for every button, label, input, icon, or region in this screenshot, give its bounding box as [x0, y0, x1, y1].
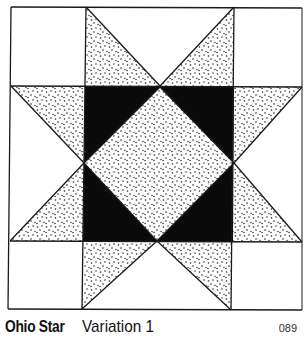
corner-square-top-right — [234, 7, 302, 87]
pattern-title: Ohio Star — [5, 316, 65, 338]
corner-square-bottom-left — [8, 240, 83, 309]
ohio-star-quilt-block — [0, 0, 304, 316]
pattern-variation: Variation 1 — [82, 316, 154, 338]
corner-square-top-left — [11, 7, 86, 86]
corner-square-bottom-right — [231, 240, 302, 310]
pattern-caption: Ohio Star Variation 1 089 — [5, 316, 301, 340]
page-number: 089 — [279, 320, 297, 336]
